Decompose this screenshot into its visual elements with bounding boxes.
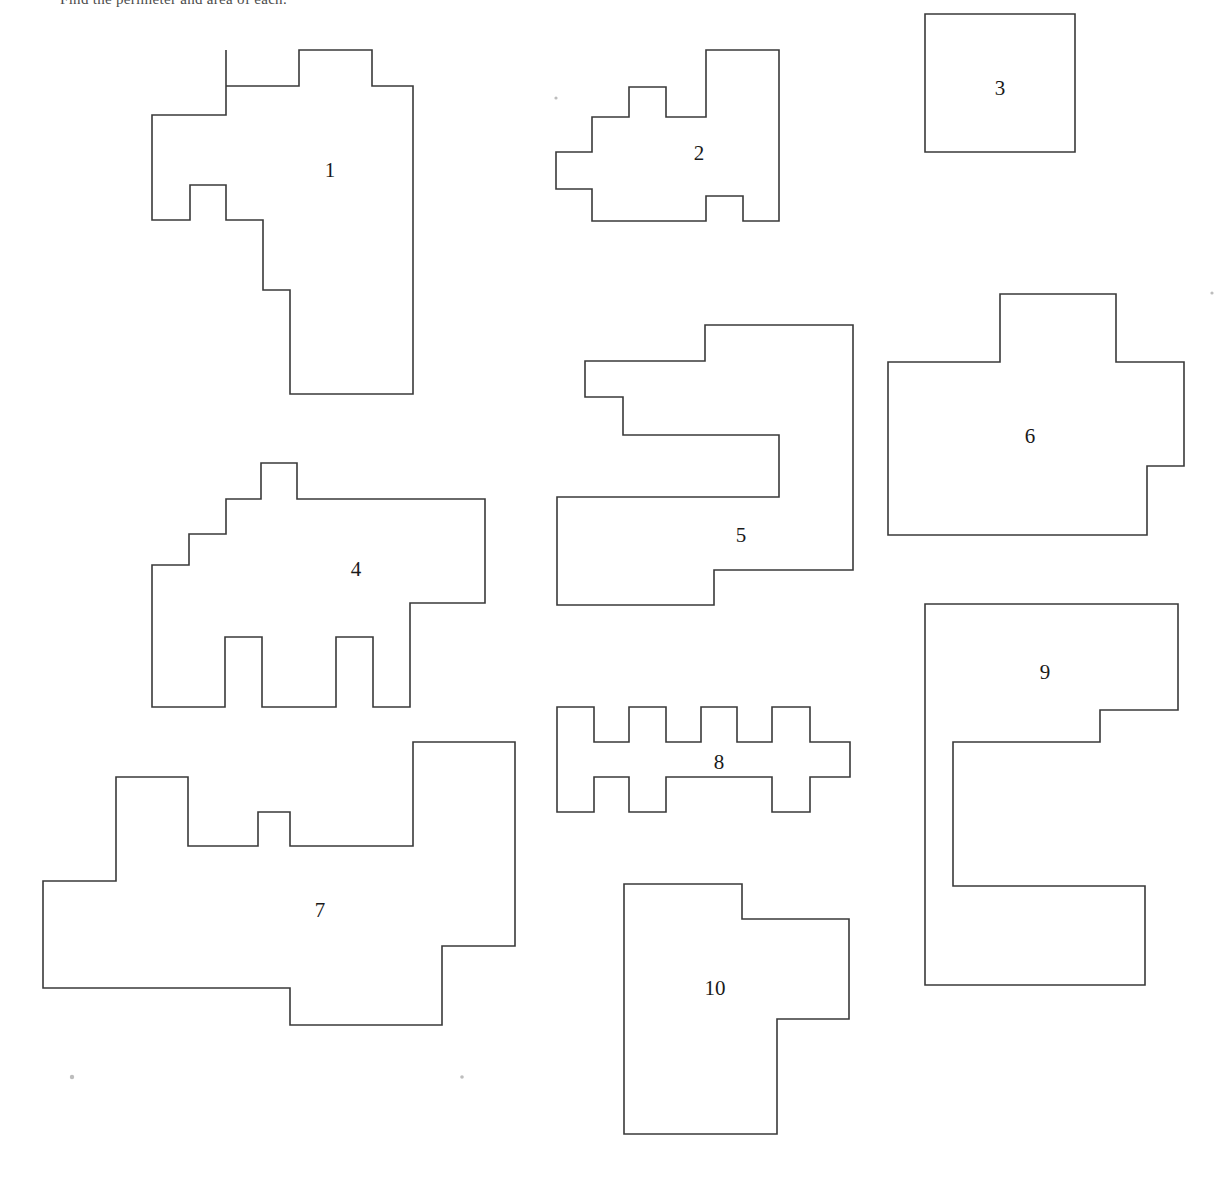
shape-2-label: 2 (694, 141, 705, 165)
shape-4-outline[interactable] (152, 463, 485, 707)
shape-2-outline[interactable] (556, 50, 779, 221)
worksheet-page: Find the perimeter and area of each. 123… (0, 0, 1227, 1191)
shapes-canvas: 12345678910 (0, 0, 1227, 1191)
shape-6-outline[interactable] (888, 294, 1184, 535)
shape-5-outline[interactable] (557, 325, 853, 605)
shape-group-9[interactable]: 9 (925, 604, 1178, 985)
paper-speck-3 (1210, 291, 1213, 294)
shapes-group: 12345678910 (43, 14, 1184, 1134)
paper-speck-1 (460, 1075, 464, 1079)
shape-5-label: 5 (736, 523, 747, 547)
shape-group-3[interactable]: 3 (925, 14, 1075, 152)
shape-7-outline[interactable] (43, 742, 515, 1025)
shape-group-5[interactable]: 5 (557, 325, 853, 605)
shape-group-2[interactable]: 2 (556, 50, 779, 221)
shape-6-label: 6 (1025, 424, 1036, 448)
shape-group-1[interactable]: 1 (152, 50, 413, 394)
shape-3-label: 3 (995, 76, 1006, 100)
shape-4-label: 4 (351, 557, 362, 581)
shape-group-10[interactable]: 10 (624, 884, 849, 1134)
shape-10-outline[interactable] (624, 884, 849, 1134)
shape-group-6[interactable]: 6 (888, 294, 1184, 535)
shape-group-7[interactable]: 7 (43, 742, 515, 1025)
shape-9-outline[interactable] (925, 604, 1178, 985)
shape-7-label: 7 (315, 898, 326, 922)
shape-group-4[interactable]: 4 (152, 463, 485, 707)
paper-speck-2 (554, 96, 557, 99)
shape-10-label: 10 (705, 976, 726, 1000)
shape-9-label: 9 (1040, 660, 1051, 684)
shape-1-label: 1 (325, 158, 336, 182)
shape-8-outline[interactable] (557, 707, 850, 812)
shape-8-label: 8 (714, 750, 725, 774)
shape-1-outline[interactable] (152, 50, 413, 394)
shape-group-8[interactable]: 8 (557, 707, 850, 812)
paper-speck-0 (70, 1075, 74, 1079)
